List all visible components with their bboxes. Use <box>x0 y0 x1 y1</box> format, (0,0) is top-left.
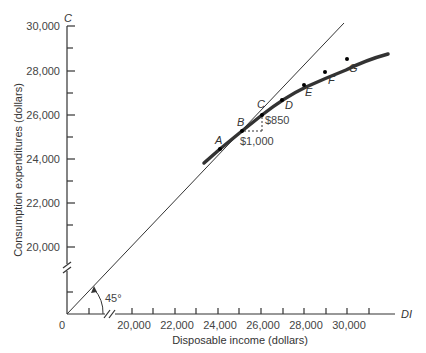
svg-text:30,000: 30,000 <box>26 20 60 32</box>
svg-text:B: B <box>237 116 244 128</box>
svg-text:24,000: 24,000 <box>26 153 60 165</box>
svg-text:26,000: 26,000 <box>246 319 280 331</box>
svg-text:24,000: 24,000 <box>203 319 237 331</box>
45-degree-line <box>67 23 344 314</box>
x-axis <box>67 308 395 314</box>
svg-text:C: C <box>257 98 265 110</box>
svg-text:28,000: 28,000 <box>26 65 60 77</box>
angle-label: 45° <box>105 292 122 304</box>
svg-text:D: D <box>285 99 293 111</box>
y-axis-symbol: C <box>64 12 72 24</box>
svg-text:G: G <box>349 62 358 74</box>
svg-text:E: E <box>305 86 313 98</box>
x-axis-break <box>104 310 115 318</box>
x-tick-labels: 20,000 22,000 24,000 26,000 28,000 30,00… <box>117 319 366 331</box>
y-axis-title: Consumption expenditures (dollars) <box>12 83 24 257</box>
x-axis-symbol: DI <box>401 308 412 320</box>
arrow-head-icon <box>91 286 97 293</box>
delta-c-label: $850 <box>265 114 289 126</box>
curve-points <box>218 57 349 151</box>
angle-arc-icon <box>94 289 103 314</box>
svg-text:20,000: 20,000 <box>117 319 151 331</box>
svg-text:30,000: 30,000 <box>332 319 366 331</box>
x-axis-title: Disposable income (dollars) <box>172 334 308 346</box>
consumption-chart: 30,000 28,000 26,000 24,000 22,000 20,00… <box>0 0 426 353</box>
svg-text:22,000: 22,000 <box>160 319 194 331</box>
delta-di-label: $1,000 <box>240 135 274 147</box>
y-tick-labels: 30,000 28,000 26,000 24,000 22,000 20,00… <box>26 20 60 253</box>
svg-text:28,000: 28,000 <box>289 319 323 331</box>
origin-label: 0 <box>59 319 65 331</box>
consumption-curve <box>204 54 388 163</box>
svg-text:A: A <box>214 134 222 146</box>
svg-text:22,000: 22,000 <box>26 197 60 209</box>
svg-text:26,000: 26,000 <box>26 109 60 121</box>
svg-text:20,000: 20,000 <box>26 241 60 253</box>
